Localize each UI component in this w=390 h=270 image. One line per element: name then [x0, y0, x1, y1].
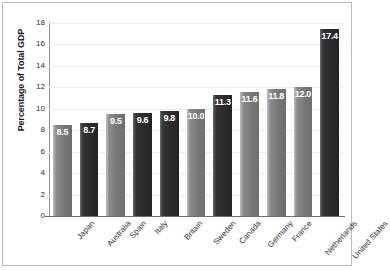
gridline — [49, 23, 343, 24]
bar-value-label: 17.4 — [320, 31, 339, 41]
bar: 11.8 — [267, 89, 286, 216]
x-tick-label: France — [290, 219, 313, 244]
y-tick-label: 18 — [23, 19, 45, 27]
bar-value-label: 9.6 — [133, 115, 152, 125]
x-tick-label: Japan — [75, 219, 96, 241]
bar-value-label: 9.5 — [106, 116, 125, 126]
y-tick-label: 0 — [23, 212, 45, 220]
bar-value-label: 11.3 — [213, 97, 232, 107]
bar: 9.6 — [133, 113, 152, 216]
x-tick-label: Spain — [128, 219, 148, 240]
bar-value-label: 9.8 — [160, 113, 179, 123]
y-tick-label: 14 — [23, 62, 45, 70]
bar: 11.6 — [240, 92, 259, 216]
bar: 8.7 — [80, 123, 99, 216]
gridline — [49, 44, 343, 45]
y-tick-label: 12 — [23, 83, 45, 91]
bar: 11.3 — [213, 95, 232, 216]
y-tick-label: 2 — [23, 191, 45, 199]
bar: 10.0 — [187, 109, 206, 216]
gridline — [49, 66, 343, 67]
bar: 9.5 — [106, 114, 125, 216]
bar-value-label: 8.7 — [80, 125, 99, 135]
y-tick-label: 4 — [23, 169, 45, 177]
bar: 9.8 — [160, 111, 179, 216]
x-tick-label: Germany — [266, 219, 295, 249]
bar-value-label: 10.0 — [187, 111, 206, 121]
y-tick-label: 8 — [23, 126, 45, 134]
y-tick-label: 16 — [23, 40, 45, 48]
bar-value-label: 11.8 — [267, 91, 286, 101]
bar: 8.5 — [53, 125, 72, 216]
bar-value-label: 12.0 — [294, 89, 313, 99]
plot-area: 8.58.79.59.69.810.011.311.611.812.017.4 — [49, 23, 343, 216]
bar: 17.4 — [320, 29, 339, 216]
y-axis-tick-labels: 024681012141618 — [21, 3, 45, 270]
bar-value-label: 11.6 — [240, 94, 259, 104]
chart-frame: Percentage of Total GDP 024681012141618 … — [2, 2, 352, 266]
x-tick-label: Canada — [238, 219, 263, 246]
y-tick-label: 10 — [23, 105, 45, 113]
x-tick-label: Sweden — [211, 219, 237, 247]
y-tick-label: 6 — [23, 148, 45, 156]
bar-value-label: 8.5 — [53, 127, 72, 137]
x-axis-category-labels: JapanAustraliaSpainItalyBritainSwedenCan… — [49, 217, 343, 270]
bar: 12.0 — [294, 87, 313, 216]
x-tick-label: Italy — [153, 219, 170, 236]
x-tick-label: Britain — [182, 219, 204, 242]
